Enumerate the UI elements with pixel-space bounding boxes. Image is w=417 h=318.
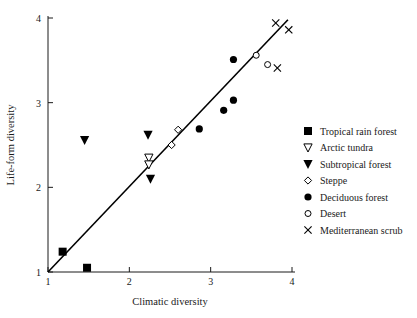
data-point <box>146 175 155 184</box>
data-point <box>80 136 89 145</box>
data-point <box>168 141 175 148</box>
legend-label: Mediterranean scrub <box>320 225 402 236</box>
data-point <box>83 264 91 272</box>
data-point <box>230 97 237 104</box>
data-point <box>220 107 227 114</box>
data-point <box>143 131 152 140</box>
legend-marker-filled-triangle-down <box>303 160 312 169</box>
data-point <box>230 56 237 63</box>
legend-item[interactable]: Steppe <box>304 175 347 186</box>
legend-marker-open-diamond <box>304 177 311 184</box>
series-arctic-tundra <box>145 154 153 169</box>
legend-label: Subtropical forest <box>320 159 392 170</box>
plot-canvas: 12341234 Climatic diversityLife-form div… <box>0 0 417 318</box>
legend-item[interactable]: Deciduous forest <box>304 192 388 203</box>
x-tick-label: 3 <box>208 276 213 287</box>
legend-item[interactable]: Tropical rain forest <box>304 126 397 137</box>
legend-label: Arctic tundra <box>320 142 374 153</box>
y-tick-label: 3 <box>36 98 41 109</box>
series-steppe <box>168 126 182 148</box>
data-point <box>272 19 279 26</box>
y-axis-title: Life-form diversity <box>5 104 16 186</box>
legend-marker-open-circle <box>305 211 311 217</box>
y-tick-label: 2 <box>36 182 41 193</box>
regression-line <box>48 20 288 272</box>
trend-line <box>48 20 288 272</box>
legend: Tropical rain forestArctic tundraSubtrop… <box>303 126 402 236</box>
legend-label: Desert <box>320 208 346 219</box>
series-mediterranean-scrub <box>272 19 292 71</box>
data-point <box>145 161 153 169</box>
data-point <box>285 26 292 33</box>
data-point <box>253 52 259 58</box>
legend-label: Steppe <box>320 175 348 186</box>
legend-marker-filled-square <box>304 127 312 135</box>
series-desert <box>253 52 270 67</box>
legend-marker-x-cross <box>304 226 311 233</box>
scatter-plot-figure: 12341234 Climatic diversityLife-form div… <box>0 0 417 318</box>
legend-marker-open-triangle-down <box>304 144 312 152</box>
data-point <box>274 64 281 71</box>
data-point <box>265 62 271 68</box>
data-points <box>59 19 293 271</box>
data-point <box>196 125 203 132</box>
legend-item[interactable]: Subtropical forest <box>303 159 391 170</box>
data-point <box>59 248 67 256</box>
legend-label: Tropical rain forest <box>320 126 397 137</box>
legend-item[interactable]: Arctic tundra <box>304 142 374 153</box>
x-tick-label: 4 <box>290 276 295 287</box>
legend-marker-filled-circle <box>304 193 311 200</box>
x-axis-title: Climatic diversity <box>132 296 208 307</box>
legend-item[interactable]: Mediterranean scrub <box>304 225 402 236</box>
series-subtropical-forest <box>80 131 155 184</box>
series-tropical-rain-forest <box>59 248 91 272</box>
y-tick-label: 1 <box>36 267 41 278</box>
y-tick-label: 4 <box>36 13 41 24</box>
legend-label: Deciduous forest <box>320 192 388 203</box>
x-tick-label: 1 <box>46 276 51 287</box>
legend-item[interactable]: Desert <box>305 208 346 219</box>
x-tick-label: 2 <box>127 276 132 287</box>
